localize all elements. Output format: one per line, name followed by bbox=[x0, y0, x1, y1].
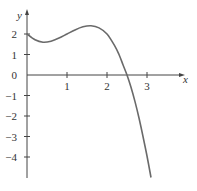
y-ticks: 210−1−2−3−4 bbox=[5, 28, 30, 163]
y-axis-arrow-icon bbox=[25, 9, 29, 15]
x-tick-label: 3 bbox=[144, 80, 150, 92]
chart: y x 123 210−1−2−3−4 bbox=[0, 0, 197, 191]
y-tick-label: 0 bbox=[12, 69, 18, 81]
x-tick-label: 2 bbox=[104, 80, 110, 92]
y-tick-label: −4 bbox=[5, 151, 17, 163]
y-tick-label: −1 bbox=[5, 90, 17, 102]
function-curve bbox=[27, 26, 151, 178]
y-tick-label: 2 bbox=[12, 28, 18, 40]
y-tick-label: 1 bbox=[12, 49, 18, 61]
y-tick-label: −2 bbox=[5, 110, 17, 122]
x-tick-label: 1 bbox=[64, 80, 70, 92]
y-tick-label: −3 bbox=[5, 131, 17, 143]
y-axis-label: y bbox=[16, 9, 22, 21]
axes: y x bbox=[16, 9, 188, 178]
x-axis-label: x bbox=[182, 73, 188, 85]
